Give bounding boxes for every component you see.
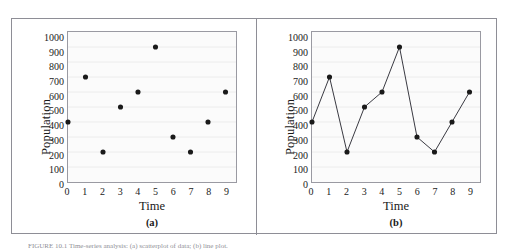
data-point [327, 74, 332, 79]
y-tick-label: 1000 [44, 33, 66, 43]
x-tick-label: 3 [118, 185, 123, 198]
data-point [83, 74, 88, 79]
data-point [449, 119, 454, 124]
x-tick-label: 8 [450, 185, 455, 198]
y-tick-label: 100 [49, 165, 66, 175]
y-tick-label: 900 [49, 48, 66, 58]
y-tick-label: 700 [49, 77, 66, 87]
x-tick-label: 6 [415, 185, 420, 198]
x-axis-ticks-a: 0123456789 [67, 185, 237, 198]
data-point [188, 149, 193, 154]
y-tick-label: 500 [49, 106, 66, 116]
y-tick-label: 600 [49, 92, 66, 102]
y-tick-label: 300 [49, 136, 66, 146]
line-plot-b [312, 32, 480, 182]
y-tick-label: 800 [293, 62, 310, 72]
y-tick-label: 600 [293, 92, 310, 102]
data-point [65, 119, 70, 124]
x-tick-label: 9 [224, 185, 229, 198]
chart-panel-b: Population 10009008007006005004003002001… [256, 19, 500, 235]
plot-area-b [311, 31, 481, 183]
y-tick-label: 500 [293, 106, 310, 116]
y-tick-label: 100 [293, 165, 310, 175]
chart-panel-a: Population 10009008007006005004003002001… [12, 19, 256, 235]
x-tick-label: 2 [344, 185, 349, 198]
y-tick-label: 1000 [288, 33, 310, 43]
x-tick-label: 3 [362, 185, 367, 198]
y-tick-label: 200 [293, 151, 310, 161]
figure-caption: FIGURE 10.1 Time-series analysis: (a) sc… [28, 242, 498, 251]
x-tick-label: 6 [171, 185, 176, 198]
data-point [362, 104, 367, 109]
data-point [309, 119, 314, 124]
plot-area-a [67, 31, 237, 183]
x-axis-label-b: Time [311, 199, 481, 214]
data-point [467, 89, 472, 94]
data-series-line [312, 47, 470, 152]
x-tick-label: 2 [100, 185, 105, 198]
x-tick-label: 4 [379, 185, 384, 198]
x-tick-label: 0 [309, 185, 314, 198]
y-tick-label: 200 [49, 151, 66, 161]
data-point [118, 104, 123, 109]
y-tick-label: 700 [293, 77, 310, 87]
data-point [135, 89, 140, 94]
data-point [100, 149, 105, 154]
y-tick-label: 900 [293, 48, 310, 58]
x-tick-label: 5 [153, 185, 158, 198]
figure-frame: Population 10009008007006005004003002001… [11, 18, 497, 234]
x-tick-label: 7 [188, 185, 193, 198]
y-axis-ticks-a: 10009008007006005004003002001000 [26, 33, 66, 190]
x-axis-label-a: Time [67, 199, 237, 214]
x-axis-ticks-b: 0123456789 [311, 185, 481, 198]
y-tick-label: 300 [293, 136, 310, 146]
x-tick-label: 1 [326, 185, 331, 198]
x-tick-label: 5 [397, 185, 402, 198]
data-point [170, 134, 175, 139]
data-point [379, 89, 384, 94]
x-tick-label: 7 [432, 185, 437, 198]
x-tick-label: 8 [206, 185, 211, 198]
panel-sublabel-b: (b) [311, 217, 481, 228]
data-point [223, 89, 228, 94]
panel-sublabel-a: (a) [67, 217, 237, 228]
data-point [344, 149, 349, 154]
scatter-plot-a [68, 32, 236, 182]
data-point [432, 149, 437, 154]
y-tick-label: 400 [293, 121, 310, 131]
x-tick-label: 4 [135, 185, 140, 198]
data-point [414, 134, 419, 139]
y-tick-label: 800 [49, 62, 66, 72]
data-point [153, 44, 158, 49]
y-tick-label: 400 [49, 121, 66, 131]
data-point [397, 44, 402, 49]
x-tick-label: 1 [82, 185, 87, 198]
x-tick-label: 0 [65, 185, 70, 198]
x-tick-label: 9 [468, 185, 473, 198]
y-axis-ticks-b: 10009008007006005004003002001000 [270, 33, 310, 190]
data-point [205, 119, 210, 124]
